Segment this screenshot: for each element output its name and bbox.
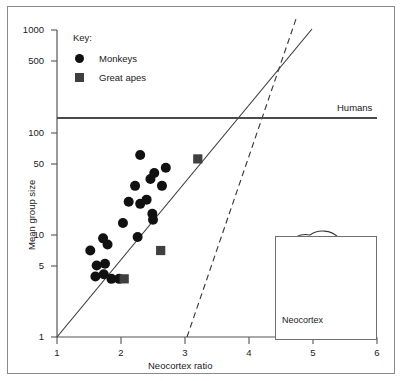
y-tick-label-50: 50 [8, 159, 44, 169]
circle-marker [135, 150, 145, 160]
circle-marker [149, 168, 159, 178]
legend-label-monkeys: Monkeys [99, 54, 137, 64]
circle-marker [148, 215, 158, 225]
scatter-points [85, 150, 202, 284]
monkey-regression-line [57, 29, 312, 337]
circle-marker [118, 218, 128, 228]
inset-label: Neocortex [282, 315, 323, 325]
legend-circle-marker [75, 54, 84, 63]
circle-marker [103, 240, 113, 250]
x-tick-label-1: 1 [45, 348, 69, 358]
x-tick-label-5: 5 [301, 348, 325, 358]
square-marker [193, 154, 202, 163]
circle-marker [130, 181, 140, 191]
y-tick-label-100: 100 [8, 128, 44, 138]
y-tick-label-1: 1 [8, 332, 44, 342]
circle-marker [124, 197, 134, 207]
x-tick-label-4: 4 [237, 348, 261, 358]
circle-marker [157, 181, 167, 191]
x-tick-label-6: 6 [365, 348, 389, 358]
y-tick-label-5: 5 [8, 261, 44, 271]
circle-marker [161, 163, 171, 173]
figure-root: Neocortex 1000 500 100 50 10 5 1 1 2 3 4… [0, 0, 402, 381]
legend-title: Key: [73, 33, 92, 43]
circle-marker [142, 195, 152, 205]
legend-label-great-apes: Great apes [99, 73, 146, 83]
legend-square-marker [75, 73, 84, 82]
square-marker [120, 274, 129, 283]
square-marker [156, 246, 165, 255]
x-tick-label-3: 3 [173, 348, 197, 358]
humans-line-label: Humans [337, 103, 372, 113]
x-tick-label-2: 2 [109, 348, 133, 358]
y-tick-label-500: 500 [8, 56, 44, 66]
circle-marker [133, 232, 143, 242]
y-axis-title: Mean group size [26, 180, 37, 250]
y-tick-label-1000: 1000 [8, 25, 44, 35]
circle-marker [85, 246, 95, 256]
circle-marker [92, 260, 102, 270]
x-axis-title: Neocortex ratio [148, 361, 212, 371]
y-tick-marks [51, 30, 57, 337]
circle-marker [100, 259, 110, 269]
